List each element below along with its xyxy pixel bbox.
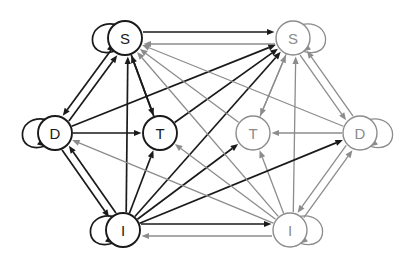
- edge-I1-to-I2: [141, 221, 272, 227]
- node-label-I1: I: [121, 222, 125, 239]
- edge-I1-to-S1: [125, 57, 131, 213]
- edge-S1-to-S2: [143, 29, 275, 35]
- edge-I2-to-D2: [304, 150, 353, 217]
- edge-D2-to-S2: [307, 51, 353, 116]
- edge-D1-to-I1: [62, 150, 109, 217]
- edge-I2-to-S2: [292, 57, 298, 213]
- edge-T2-to-S2: [260, 55, 286, 116]
- directed-graph-svg: SSDTTDII: [0, 0, 414, 264]
- node-label-D2: D: [355, 125, 366, 142]
- node-S1[interactable]: S: [108, 21, 142, 55]
- edge-D1-to-T1: [73, 130, 142, 136]
- edge-S2-to-D2: [300, 55, 346, 120]
- node-label-I2: I: [288, 222, 292, 239]
- node-label-S2: S: [288, 30, 298, 47]
- node-I2[interactable]: I: [273, 213, 307, 247]
- node-D1[interactable]: D: [38, 116, 72, 150]
- edge-I1-to-T1: [129, 150, 153, 213]
- node-T2[interactable]: T: [236, 116, 270, 150]
- edge-S2-to-S1: [144, 41, 276, 47]
- edge-layer: [62, 29, 353, 239]
- node-label-D1: D: [50, 125, 61, 142]
- edge-I1-to-D2: [140, 140, 343, 223]
- node-label-T2: T: [248, 125, 257, 142]
- edge-T1-to-S1: [131, 55, 154, 116]
- diagram-canvas: SSDTTDII: [0, 0, 414, 264]
- node-label-S1: S: [120, 30, 130, 47]
- edge-D2-to-T2: [272, 130, 343, 136]
- node-label-T1: T: [155, 125, 164, 142]
- node-T1[interactable]: T: [143, 116, 177, 150]
- node-D2[interactable]: D: [343, 116, 377, 150]
- edge-D1-to-S2: [72, 45, 276, 127]
- edge-I2-to-T2: [259, 150, 283, 213]
- edge-I2-to-I1: [142, 233, 273, 239]
- node-S2[interactable]: S: [276, 21, 310, 55]
- node-I1[interactable]: I: [106, 213, 140, 247]
- edge-S1-to-D1: [63, 50, 111, 116]
